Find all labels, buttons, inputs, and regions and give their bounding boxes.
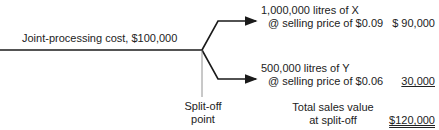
total-label-line2: at split-off — [290, 114, 376, 127]
joint-cost-label: Joint-processing cost, $100,000 — [22, 32, 177, 45]
split-off-line2: point — [180, 113, 226, 126]
product-y-line1: 500,000 litres of Y — [261, 62, 349, 75]
product-x-value: $ 90,000 — [370, 17, 435, 30]
total-value: $120,000 — [370, 114, 435, 127]
product-x-branch — [202, 21, 256, 50]
product-y-branch — [202, 50, 256, 79]
product-y-value: 30,000 — [370, 75, 435, 88]
product-x-line2: @ selling price of $0.09 — [268, 17, 383, 30]
split-off-label: Split-off point — [180, 100, 226, 126]
split-off-line1: Split-off — [180, 100, 226, 113]
product-y-line2: @ selling price of $0.06 — [268, 75, 383, 88]
product-x-line1: 1,000,000 litres of X — [261, 4, 359, 17]
total-label-line1: Total sales value — [290, 101, 376, 114]
